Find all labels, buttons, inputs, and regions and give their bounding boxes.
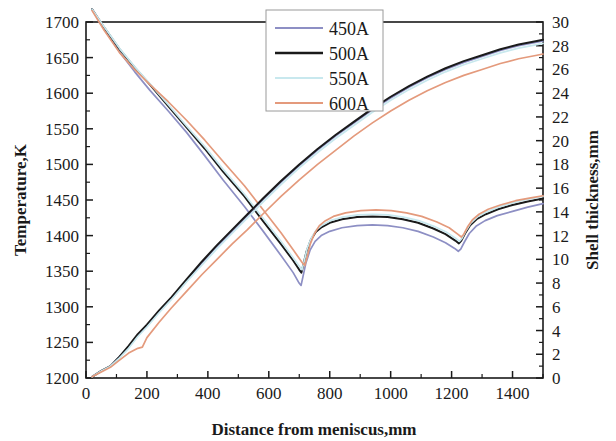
y-axis-right-tick-label: 26 bbox=[552, 60, 569, 79]
y-axis-right-tick-label: 22 bbox=[552, 108, 569, 127]
y-axis-left-tick-label: 1700 bbox=[45, 13, 79, 32]
y-axis-left-tick-label: 1450 bbox=[45, 191, 79, 210]
y-axis-right-title: Shell thickness,mm bbox=[583, 130, 602, 270]
legend-label-450a: 450A bbox=[329, 19, 369, 39]
x-axis-tick-label: 600 bbox=[256, 384, 282, 403]
y-axis-right-tick-label: 4 bbox=[552, 322, 561, 341]
y-axis-right-tick-label: 28 bbox=[552, 37, 569, 56]
y-axis-left-tick-label: 1550 bbox=[45, 120, 79, 139]
x-axis-tick-label: 800 bbox=[317, 384, 343, 403]
y-axis-right-tick-label: 0 bbox=[552, 369, 561, 388]
chart-legend: 450A500A550A600A bbox=[266, 10, 383, 114]
x-axis-title: Distance from meniscus,mm bbox=[211, 420, 416, 439]
legend-label-500a: 500A bbox=[329, 44, 369, 64]
y-axis-left-title: Temperature,K bbox=[11, 143, 30, 256]
y-axis-left-tick-label: 1650 bbox=[45, 49, 79, 68]
chart-svg: 1200125013001350140014501500155016001650… bbox=[0, 0, 616, 441]
x-axis-tick-label: 1400 bbox=[496, 384, 530, 403]
y-axis-right-tick-label: 14 bbox=[552, 203, 570, 222]
y-axis-right-tick-label: 10 bbox=[552, 250, 569, 269]
y-axis-left-tick-label: 1350 bbox=[45, 262, 79, 281]
x-axis-tick-label: 0 bbox=[82, 384, 91, 403]
y-axis-right-tick-label: 16 bbox=[552, 179, 569, 198]
y-axis-left-tick-label: 1300 bbox=[45, 298, 79, 317]
y-axis-right-tick-label: 12 bbox=[552, 227, 569, 246]
y-axis-left-tick-label: 1250 bbox=[45, 333, 79, 352]
y-axis-left-tick-label: 1500 bbox=[45, 155, 79, 174]
y-axis-right-tick-label: 24 bbox=[552, 84, 570, 103]
y-axis-right-tick-label: 2 bbox=[552, 345, 561, 364]
legend-label-550a: 550A bbox=[329, 69, 369, 89]
x-axis-tick-label: 400 bbox=[195, 384, 221, 403]
y-axis-right-tick-label: 20 bbox=[552, 132, 569, 151]
y-axis-left-tick-label: 1600 bbox=[45, 84, 79, 103]
y-axis-right-tick-label: 18 bbox=[552, 155, 569, 174]
x-axis-tick-label: 1200 bbox=[435, 384, 469, 403]
chart-figure: 1200125013001350140014501500155016001650… bbox=[0, 0, 616, 441]
y-axis-right-tick-label: 8 bbox=[552, 274, 561, 293]
x-axis-tick-label: 200 bbox=[134, 384, 160, 403]
y-axis-right-tick-label: 6 bbox=[552, 298, 561, 317]
legend-label-600a: 600A bbox=[329, 94, 369, 114]
x-axis-tick-label: 1000 bbox=[374, 384, 408, 403]
y-axis-right-tick-label: 30 bbox=[552, 13, 569, 32]
y-axis-left-tick-label: 1400 bbox=[45, 227, 79, 246]
y-axis-left-tick-label: 1200 bbox=[45, 369, 79, 388]
